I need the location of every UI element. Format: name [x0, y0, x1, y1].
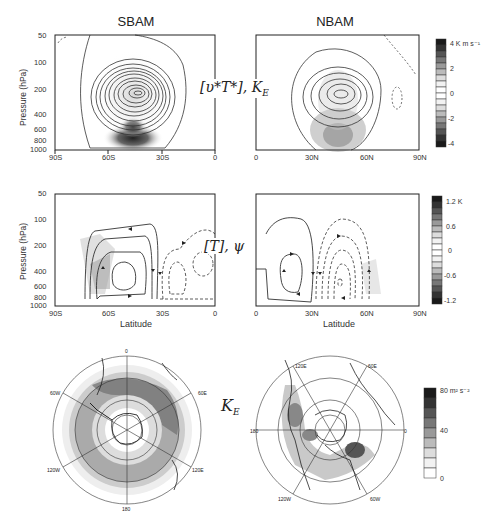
x-tick: 90N [413, 153, 427, 162]
sbam-title: SBAM [96, 14, 176, 29]
y-tick: 1000 [30, 301, 47, 310]
sbam-keplot [55, 35, 215, 150]
x-tick: 30N [305, 153, 319, 162]
y-tick: 50 [38, 189, 46, 198]
map-label: 0 [404, 428, 407, 434]
pressure-axis-label: Pressure (hPa) [18, 223, 28, 280]
x-tick: 0 [213, 309, 217, 318]
x-tick: 60S [102, 153, 115, 162]
latitude-axis-label: Latitude [323, 319, 355, 329]
colorbar-label: 0 [440, 475, 444, 482]
colorbar-row1 [436, 39, 446, 147]
x-tick: 0 [213, 153, 217, 162]
colorbar-label: -0.6 [444, 272, 456, 279]
y-tick: 800 [34, 136, 47, 145]
row1-variable-label: [υ*T*], KE [198, 79, 271, 98]
y-tick: 100 [34, 215, 47, 224]
colorbar-label: -1.2 [444, 297, 456, 304]
map-label: 60E [368, 363, 377, 369]
colorbar-label: 40 [440, 427, 448, 434]
colorbar-label: 0 [448, 247, 452, 254]
pressure-axis-label: Pressure (hPa) [18, 69, 28, 126]
y-tick: 600 [34, 125, 47, 134]
map-label: 120E [192, 467, 204, 473]
colorbar-label: 4 K m s⁻¹ [450, 40, 480, 48]
x-tick: 60S [102, 309, 115, 318]
x-tick: 90N [413, 309, 427, 318]
colorbar-label: 80 m² s⁻² [440, 387, 470, 395]
colorbar-label: 0 [450, 90, 454, 97]
sbam-polar-map [52, 355, 202, 505]
y-tick: 200 [34, 241, 47, 250]
colorbar-label: -4 [448, 140, 454, 147]
x-tick: 30S [156, 309, 169, 318]
y-tick: 100 [34, 58, 47, 67]
sbam-tpsi-plot [55, 194, 215, 306]
x-tick: 0 [254, 153, 258, 162]
map-label: 120W [47, 467, 60, 473]
colorbar-label: 1.2 K [446, 198, 462, 205]
nbam-tpsi-plot [256, 194, 419, 306]
y-tick: 400 [34, 110, 47, 119]
nbam-keplot [256, 35, 419, 150]
map-label: 60W [370, 496, 380, 502]
colorbar-label: 0.6 [446, 223, 456, 230]
x-tick: 60N [360, 309, 374, 318]
x-tick: 90S [49, 309, 62, 318]
y-tick: 50 [38, 31, 46, 40]
map-label: 120W [278, 496, 291, 502]
y-tick: 200 [34, 85, 47, 94]
colorbar-label: -2 [448, 115, 454, 122]
map-label: 120E [295, 363, 307, 369]
y-tick: 600 [34, 282, 47, 291]
map-label: 60W [50, 390, 60, 396]
x-tick: 30S [156, 153, 169, 162]
nbam-title: NBAM [295, 14, 375, 29]
y-tick: 1000 [30, 145, 47, 154]
map-label: 180 [250, 428, 258, 434]
map-label: 0 [125, 348, 128, 354]
colorbar-label: 2 [450, 65, 454, 72]
row3-variable-label: KE [219, 396, 242, 417]
colorbar-row3 [424, 388, 436, 478]
map-label: 60E [198, 390, 207, 396]
latitude-axis-label: Latitude [120, 319, 152, 329]
x-tick: 0 [254, 309, 258, 318]
row2-variable-label: [T], ψ [202, 238, 246, 254]
x-tick: 30N [305, 309, 319, 318]
map-label: 180 [122, 506, 130, 512]
nbam-polar-map [255, 355, 405, 505]
x-tick: 60N [360, 153, 374, 162]
y-tick: 400 [34, 267, 47, 276]
colorbar-row2 [432, 196, 442, 304]
x-tick: 90S [49, 153, 62, 162]
